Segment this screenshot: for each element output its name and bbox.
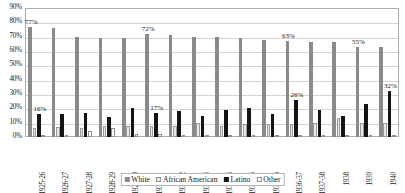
bar-white bbox=[309, 42, 313, 137]
bar-white: 72% bbox=[145, 34, 149, 137]
bar-white bbox=[122, 38, 126, 137]
x-axis: 1925-261926-271927-281928-291929-301930-… bbox=[25, 139, 399, 173]
bar-african-american bbox=[196, 123, 200, 137]
bar-latino bbox=[341, 116, 345, 138]
x-axis-tick-label: 1927-28 bbox=[87, 172, 94, 193]
bar-data-label: 26% bbox=[291, 92, 304, 99]
bar-white bbox=[52, 28, 56, 137]
bar-group: 72%17% bbox=[142, 8, 165, 137]
bar-other bbox=[369, 135, 373, 137]
legend-swatch-icon bbox=[256, 177, 261, 182]
bar-group: 63%26% bbox=[282, 8, 305, 137]
bar-other bbox=[65, 135, 69, 137]
bar-african-american bbox=[103, 126, 107, 137]
bar-latino: 17% bbox=[154, 113, 158, 137]
bar-other bbox=[322, 135, 326, 137]
bar-other bbox=[182, 135, 186, 137]
y-axis-tick-label: 60% bbox=[9, 47, 22, 54]
bar-white: 55% bbox=[356, 47, 360, 137]
bar-latino bbox=[224, 110, 228, 137]
bar-group bbox=[72, 8, 95, 137]
bar-white bbox=[169, 35, 173, 137]
bar-other bbox=[158, 134, 162, 137]
x-axis-tick-label: 1940 bbox=[391, 172, 398, 186]
legend-swatch-icon bbox=[124, 177, 129, 182]
bar-white bbox=[239, 38, 243, 137]
bar-latino: 16% bbox=[37, 114, 41, 137]
bar-white bbox=[215, 37, 219, 137]
bar-white bbox=[379, 47, 383, 137]
bar-group bbox=[259, 8, 282, 137]
chart-legend: WhiteAfrican AmericanLatinoOther bbox=[120, 173, 284, 186]
bar-white bbox=[262, 40, 266, 137]
bar-african-american bbox=[267, 124, 271, 137]
bar-african-american bbox=[33, 128, 37, 137]
bar-latino bbox=[247, 108, 251, 137]
bar-data-label: 63% bbox=[282, 33, 295, 40]
bar-group bbox=[212, 8, 235, 137]
x-axis-tick-label: 1925-26 bbox=[40, 172, 47, 193]
bar-other bbox=[88, 131, 92, 137]
legend-label: African American bbox=[163, 175, 218, 184]
legend-item-latino: Latino bbox=[224, 175, 251, 184]
bar-latino: 32% bbox=[388, 91, 392, 137]
x-axis-tick-label: 1937-38 bbox=[320, 172, 327, 193]
bar-data-label: 32% bbox=[384, 83, 397, 90]
y-axis-tick-label: 20% bbox=[9, 105, 22, 112]
legend-swatch-icon bbox=[224, 177, 229, 182]
legend-label: Latino bbox=[231, 175, 251, 184]
bar-data-label: 77% bbox=[25, 19, 38, 26]
bar-data-label: 16% bbox=[33, 106, 46, 113]
bar-data-label: 17% bbox=[150, 105, 163, 112]
bar-latino bbox=[271, 114, 275, 137]
bar-african-american bbox=[243, 124, 247, 137]
bar-latino bbox=[177, 111, 181, 137]
legend-label: White bbox=[131, 175, 150, 184]
bar-latino bbox=[364, 104, 368, 137]
legend-item-white: White bbox=[124, 175, 150, 184]
bar-other bbox=[41, 135, 45, 137]
y-axis-tick-label: 30% bbox=[9, 90, 22, 97]
bar-latino bbox=[107, 117, 111, 137]
bar-latino bbox=[201, 116, 205, 138]
bar-group: 77%16% bbox=[25, 8, 48, 137]
bar-group bbox=[165, 8, 188, 137]
legend-item-other: Other bbox=[256, 175, 280, 184]
bar-group bbox=[95, 8, 118, 137]
bar-group bbox=[306, 8, 329, 137]
bar-group bbox=[119, 8, 142, 137]
bar-latino bbox=[60, 114, 64, 137]
bar-latino bbox=[84, 113, 88, 137]
bar-data-label: 55% bbox=[352, 39, 365, 46]
bar-african-american bbox=[80, 128, 84, 137]
bar-white bbox=[99, 38, 103, 137]
legend-label: Other bbox=[263, 175, 280, 184]
bar-group bbox=[235, 8, 258, 137]
bar-other bbox=[252, 135, 256, 137]
y-axis-tick-label: 80% bbox=[9, 19, 22, 26]
bar-african-american bbox=[290, 124, 294, 137]
bar-african-american bbox=[337, 118, 341, 137]
bar-other bbox=[345, 135, 349, 137]
y-axis: 90%80%70%60%50%40%30%20%10%0% bbox=[0, 0, 25, 145]
bar-white bbox=[75, 37, 79, 137]
bar-other bbox=[205, 135, 209, 137]
bar-african-american bbox=[383, 123, 387, 137]
bar-african-american bbox=[126, 126, 130, 137]
bar-latino bbox=[131, 108, 135, 137]
bar-white: 77% bbox=[28, 27, 32, 137]
bar-other bbox=[392, 135, 396, 137]
bar-other bbox=[135, 134, 139, 137]
bar-group bbox=[48, 8, 71, 137]
y-axis-tick-label: 0% bbox=[13, 133, 22, 140]
legend-item-african-american: African American bbox=[156, 175, 218, 184]
bar-other bbox=[228, 135, 232, 137]
y-axis-tick-label: 40% bbox=[9, 76, 22, 83]
bar-african-american bbox=[150, 126, 154, 137]
bar-african-american bbox=[360, 123, 364, 137]
legend-swatch-icon bbox=[156, 177, 161, 182]
x-axis-tick-label: 1928-29 bbox=[110, 172, 117, 193]
bar-group bbox=[189, 8, 212, 137]
y-axis-tick-label: 10% bbox=[9, 119, 22, 126]
x-axis-tick-label: 1939 bbox=[367, 172, 374, 186]
